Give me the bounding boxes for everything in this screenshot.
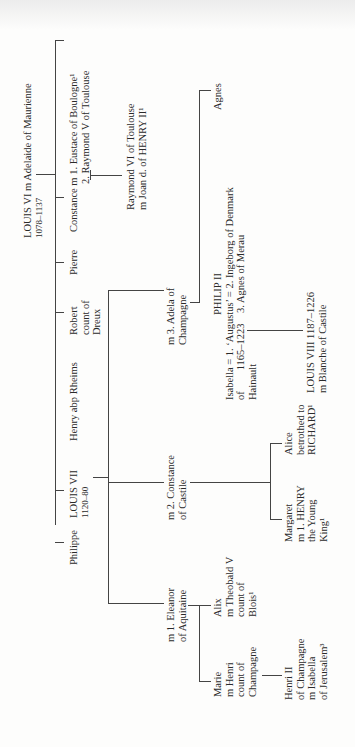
connector xyxy=(55,490,64,491)
node-constance: Constance m 1. Eustace of Boulogne¹ 2. R… xyxy=(68,71,91,232)
connector xyxy=(190,482,270,483)
node-eleanor: m 1. Eleanor of Aquitaine xyxy=(165,588,188,642)
connector xyxy=(55,262,64,263)
node-henri-ii: Henri II of Champagne m Isabella of Jeru… xyxy=(283,638,329,700)
connector xyxy=(93,477,108,478)
connector xyxy=(55,542,64,543)
connector xyxy=(108,482,164,483)
node-alice: Alice betrothed to RICHARD¹ xyxy=(283,405,318,455)
connector xyxy=(199,605,211,606)
node-robert: Robert count of Dreux xyxy=(68,300,103,335)
node-pierre: Pierre xyxy=(68,250,80,275)
connector xyxy=(55,312,64,313)
node-louis-vi: LOUIS VI m Adelaide of Maurienne 1078–11… xyxy=(22,83,45,238)
connector xyxy=(190,302,200,303)
connector xyxy=(199,90,211,91)
connector xyxy=(55,40,56,525)
node-henry: Henry abp Rheims xyxy=(68,362,80,441)
node-louis-viii: LOUIS VIII 1187–1226 m Blanche of Castil… xyxy=(305,292,328,393)
connector xyxy=(188,605,199,606)
genealogy-page: LOUIS VI m Adelaide of Maurienne 1078–11… xyxy=(0,0,355,747)
node-philip-ii: PHILIP II Isabella = 1. ‘Augustus’ = 2. … xyxy=(212,187,258,400)
node-constance-castile: m 2. Constance of Castile xyxy=(165,455,188,520)
node-agnes: Agnes xyxy=(212,83,224,110)
connector xyxy=(108,290,109,603)
connector xyxy=(108,290,164,291)
connector xyxy=(270,519,282,520)
node-alix: Alix m Theobald V count of Blois¹ xyxy=(212,557,258,617)
node-louis-vii: LOUIS VII 1120–80 xyxy=(68,470,91,518)
connector xyxy=(199,90,200,302)
scan-shade xyxy=(0,0,355,30)
connector xyxy=(55,197,64,198)
connector xyxy=(199,681,211,682)
connector xyxy=(262,675,282,676)
connector xyxy=(199,605,200,682)
connector xyxy=(270,443,282,444)
node-philippe: Philippe xyxy=(68,530,80,565)
connector xyxy=(108,603,164,604)
connector xyxy=(55,40,64,41)
node-margaret: Margaret m 1. HENRY the Young King¹ xyxy=(283,485,329,542)
connector xyxy=(270,443,271,520)
node-adela: m 3. Adela of Champagne xyxy=(165,288,188,345)
node-marie: Marie m Henri count of Champagne xyxy=(212,647,258,697)
connector xyxy=(90,175,122,176)
node-raymond-vi: Raymond VI of Toulouse m Joan d. of HENR… xyxy=(125,104,148,211)
